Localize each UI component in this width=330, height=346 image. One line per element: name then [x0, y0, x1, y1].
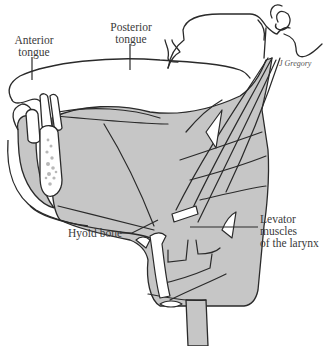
label-posterior-tongue: Posterior tongue	[102, 21, 160, 45]
cartilage-sliver	[160, 301, 182, 307]
mastoid-outline	[284, 34, 322, 57]
mandible-symphysis	[40, 126, 62, 197]
tongue-tip	[12, 99, 42, 104]
anatomy-figure: Anterior tongue Posterior tongue Hyoid b…	[0, 0, 330, 346]
label-levator-muscles: Levator muscles of the larynx	[260, 213, 319, 249]
upper-lip-outline	[165, 40, 178, 62]
nasal-outline	[168, 40, 180, 68]
label-hyoid-bone: Hyoid bone	[68, 227, 122, 239]
label-anterior-tongue: Anterior tongue	[6, 34, 62, 58]
lower-incisor	[26, 110, 40, 144]
trachea	[186, 300, 208, 346]
ear-curl-inner	[275, 12, 290, 30]
illustrator-credit: J Gregory	[279, 59, 311, 68]
